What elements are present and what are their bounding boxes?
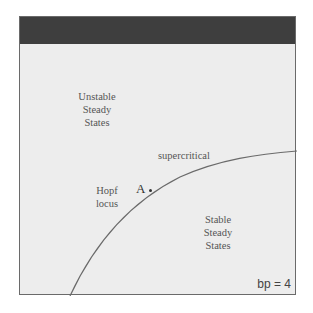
point-a-marker [149, 189, 152, 192]
unstable-line-3: States [72, 116, 122, 129]
hopf-line-1: Hopf [92, 184, 122, 197]
hopf-line-2: locus [92, 197, 122, 210]
parameter-label: bp = 4 [257, 277, 291, 291]
unstable-line-2: Steady [72, 103, 122, 116]
diagram-frame: Unstable Steady States supercritical Hop… [19, 16, 296, 295]
hopf-locus-label: Hopf locus [92, 184, 122, 210]
supercritical-label: supercritical [158, 149, 210, 162]
stable-line-2: Steady [193, 226, 243, 239]
unstable-region-label: Unstable Steady States [72, 90, 122, 129]
point-a-label: A [136, 181, 145, 197]
stable-line-1: Stable [193, 213, 243, 226]
stable-region-label: Stable Steady States [193, 213, 243, 252]
unstable-line-1: Unstable [72, 90, 122, 103]
stable-line-3: States [193, 239, 243, 252]
